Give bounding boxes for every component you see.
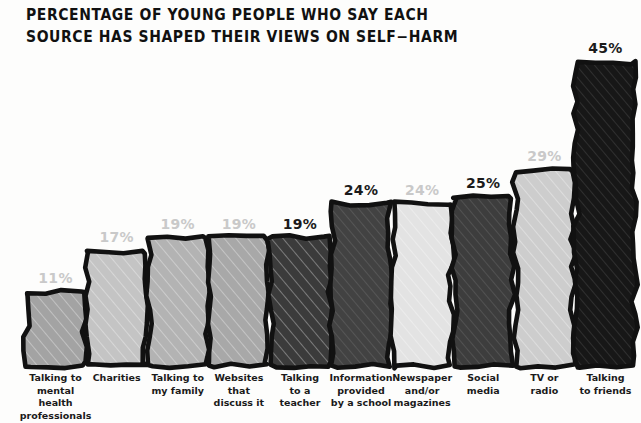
bar-teacher-value-label: 19%: [263, 216, 337, 232]
bar-friends-value-label: 45%: [568, 40, 641, 56]
bar-hatch-texture: [268, 235, 333, 368]
chart-container: PERCENTAGE OF YOUNG PEOPLE WHO SAY EACH …: [0, 0, 641, 423]
bar-mental-health-value-label: 11%: [19, 270, 93, 286]
bar-hatch-texture: [146, 236, 209, 368]
bars-svg: [0, 0, 641, 423]
bar-hatch-texture: [573, 61, 638, 367]
bar-friends-category-label: Talking to friends: [569, 372, 641, 397]
bar-hatch-texture: [208, 235, 269, 367]
plot-area: 11%17%19%19%19%24%24%25%29%45% Talking t…: [0, 0, 641, 423]
bar-hatch-texture: [329, 202, 392, 368]
bar-hatch-texture: [452, 196, 515, 368]
bar-hatch-texture: [512, 169, 576, 369]
bar-hatch-texture: [391, 202, 455, 369]
bar-hatch-texture: [85, 251, 148, 366]
bar-social-media-value-label: 25%: [446, 175, 520, 191]
bar-tv-radio-value-label: 29%: [507, 148, 581, 164]
bar-hatch-texture: [23, 290, 87, 368]
